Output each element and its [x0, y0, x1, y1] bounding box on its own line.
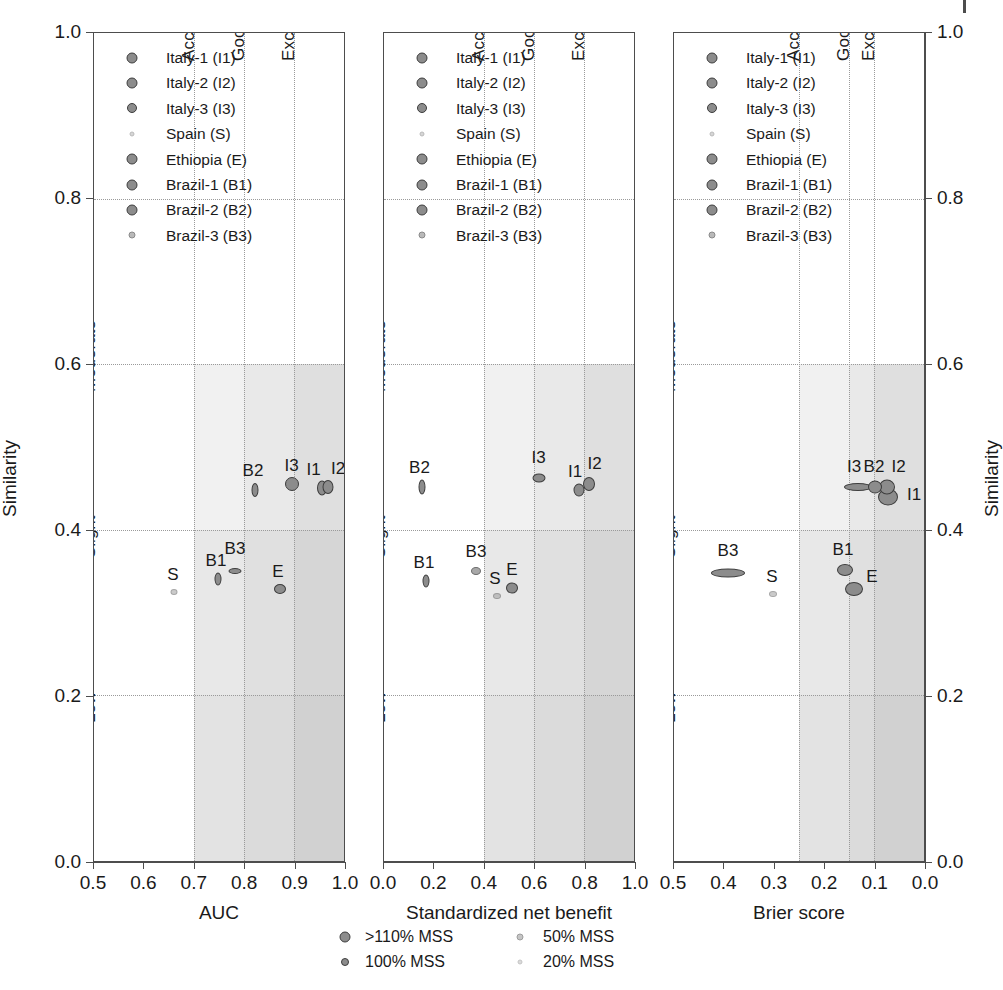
circle-marker-icon [709, 232, 716, 239]
circle-marker-icon [417, 205, 428, 216]
circle-marker-icon [707, 78, 718, 89]
data-point-B2[interactable] [868, 480, 882, 493]
plot-panel-2: AcceptableGoodExcellentModerateSlightLow… [383, 32, 635, 862]
circle-marker-icon [127, 154, 138, 165]
legend-item-label: Brazil-3 (B3) [166, 223, 252, 248]
quality-shade-block [584, 695, 634, 861]
x-tick [774, 862, 775, 869]
x-tick [93, 862, 94, 869]
y-tick-label: 0.6 [31, 353, 81, 375]
data-point-B1[interactable] [837, 564, 853, 576]
legend-item-label: Ethiopia (E) [746, 147, 827, 172]
plot-area-3: AcceptableGoodExcellentModerateSlightLow… [673, 32, 925, 862]
x-tick [635, 862, 636, 869]
similarity-band-label: Moderate [673, 320, 680, 392]
quality-shade-moderate [584, 364, 634, 530]
size-legend-marker-icon [517, 934, 524, 941]
y-tick-label: 0.0 [937, 851, 987, 873]
data-point-label-B2: B2 [409, 458, 430, 478]
circle-marker-icon [417, 154, 428, 165]
data-point-label-E: E [272, 562, 283, 582]
gridline-horizontal [384, 695, 634, 696]
similarity-band-label: Slight [383, 515, 390, 558]
x-axis-title-1: AUC [93, 902, 345, 924]
data-point-E[interactable] [274, 584, 286, 594]
data-point-B2[interactable] [418, 479, 425, 494]
data-point-E[interactable] [845, 582, 863, 596]
quality-shade-block [484, 695, 534, 861]
size-legend-label: 20% MSS [543, 953, 614, 971]
quality-shade-moderate [194, 364, 244, 530]
data-point-I2[interactable] [583, 477, 595, 491]
circle-marker-icon [417, 52, 428, 63]
quality-shade-block [874, 530, 924, 696]
similarity-band-label: Slight [93, 515, 100, 558]
data-point-I3[interactable] [285, 477, 299, 491]
data-point-label-S: S [489, 569, 500, 589]
size-legend-label: >110% MSS [365, 928, 453, 946]
circle-marker-icon [420, 131, 425, 136]
data-point-B1[interactable] [423, 575, 430, 588]
quality-shade-moderate [244, 364, 294, 530]
x-tick-label: 0.4 [698, 872, 748, 894]
legend-item-label: Brazil-1 (B1) [746, 172, 832, 197]
gridline-vertical [584, 33, 585, 861]
data-point-B2[interactable] [252, 483, 259, 497]
data-point-S[interactable] [769, 591, 777, 597]
x-tick-label: 0.7 [169, 872, 219, 894]
circle-marker-icon [127, 52, 138, 63]
x-tick [194, 862, 195, 869]
x-tick-label: 0.4 [459, 872, 509, 894]
gridline-horizontal [94, 364, 344, 365]
circle-marker-icon [417, 179, 428, 190]
x-tick [673, 862, 674, 869]
data-point-I3[interactable] [532, 474, 545, 483]
size-legend-label: 50% MSS [543, 928, 614, 946]
x-axis-title-2: Standardized net benefit [383, 902, 635, 924]
data-point-B1[interactable] [215, 573, 222, 586]
data-point-B3[interactable] [711, 568, 745, 577]
x-tick [925, 862, 926, 869]
quality-shade-block [484, 530, 534, 696]
circle-marker-icon [707, 52, 718, 63]
legend-item-label: Italy-2 (I2) [166, 70, 236, 95]
data-point-label-B1: B1 [206, 551, 227, 571]
x-tick [875, 862, 876, 869]
data-point-S[interactable] [171, 589, 178, 595]
circle-marker-icon [707, 205, 718, 216]
data-point-B3[interactable] [471, 567, 481, 575]
gridline-horizontal [384, 530, 634, 531]
quality-shade-block [799, 695, 849, 861]
data-point-E[interactable] [506, 582, 518, 593]
data-point-I2[interactable] [323, 480, 334, 494]
data-point-label-I2: I2 [587, 454, 601, 474]
data-point-S[interactable] [493, 593, 501, 599]
y-tick [925, 32, 932, 33]
y-tick [86, 32, 93, 33]
circle-marker-icon [129, 232, 136, 239]
quality-band-label: Good [834, 32, 854, 61]
y-tick-label: 1.0 [937, 21, 987, 43]
x-tick-label: 0.0 [900, 872, 950, 894]
gridline-vertical [849, 33, 850, 861]
legend-item-label: Brazil-1 (B1) [456, 172, 542, 197]
y-tick [925, 364, 932, 365]
x-tick-label: 0.9 [270, 872, 320, 894]
legend-item-label: Italy-1 (I1) [456, 45, 526, 70]
quality-shade-moderate [484, 364, 534, 530]
size-legend-marker-icon [340, 932, 351, 943]
y-tick [86, 862, 93, 863]
y-tick-label: 0.6 [937, 353, 987, 375]
x-tick [383, 862, 384, 869]
quality-shade-block [294, 530, 344, 696]
y-tick [925, 198, 932, 199]
legend-item-label: Spain (S) [746, 121, 811, 146]
x-axis-line-3 [673, 862, 925, 863]
plot-panel-1: AcceptableGoodExcellentModerateSlightLow… [93, 32, 345, 862]
data-point-B3[interactable] [229, 568, 242, 574]
quality-shade-block [874, 695, 924, 861]
y-tick [86, 198, 93, 199]
y-tick-label: 0.2 [31, 685, 81, 707]
circle-marker-icon [710, 131, 715, 136]
circle-marker-icon [707, 103, 717, 113]
